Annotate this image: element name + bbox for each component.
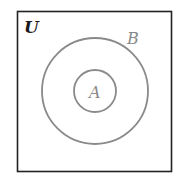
set-b-label: B: [126, 29, 139, 48]
set-a-label: A: [87, 83, 101, 102]
venn-diagram: U B A: [0, 0, 182, 185]
universe-label: U: [24, 17, 40, 37]
